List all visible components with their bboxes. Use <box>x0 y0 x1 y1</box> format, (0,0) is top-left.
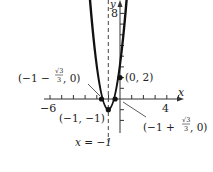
left-root-label: (−1 − √3 3 , 0) <box>18 67 80 84</box>
parabola-graph: 8 y x −6 4 (0, 2) (−1, −1) x = −1 (−1 − … <box>0 0 213 172</box>
root-left-point <box>99 96 104 101</box>
right-root-pointer <box>123 102 146 117</box>
y-intercept-point <box>117 75 122 80</box>
symmetry-label: x = −1 <box>75 136 112 148</box>
y-intercept-label: (0, 2) <box>125 71 153 83</box>
svg-text:, 0): , 0) <box>190 121 207 133</box>
right-root-label: (−1 + √3 3 , 0) <box>143 116 207 133</box>
svg-text:(−1 +: (−1 + <box>143 121 175 133</box>
x-tick-label-4: 4 <box>162 102 169 115</box>
svg-text:, 0): , 0) <box>63 72 80 84</box>
y-axis-label: y <box>109 0 116 9</box>
left-root-pointer <box>88 84 100 96</box>
y-axis-arrow-icon <box>118 0 123 7</box>
svg-text:3: 3 <box>57 76 61 84</box>
vertex-label: (−1, −1) <box>59 112 105 124</box>
svg-text:3: 3 <box>184 125 188 133</box>
x-axis-label: x <box>178 86 185 99</box>
root-right-point <box>113 96 118 101</box>
vertex-point <box>106 107 111 112</box>
svg-text:(−1 −: (−1 − <box>18 72 50 84</box>
x-tick-label-neg6: −6 <box>40 102 56 115</box>
